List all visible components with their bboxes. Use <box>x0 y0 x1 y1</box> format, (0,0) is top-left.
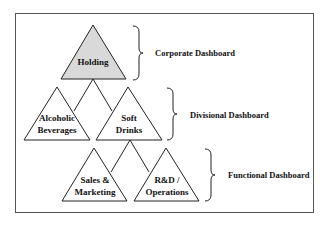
functional-brace <box>205 149 215 201</box>
connector-triangle-2 <box>111 140 149 172</box>
divisional-dashboard-label: Divisional Dashboard <box>190 110 269 120</box>
rnd-label-1: R&D / <box>154 175 180 185</box>
soft-drinks-label-1: Soft <box>121 113 137 123</box>
soft-drinks-label-2: Drinks <box>116 125 143 135</box>
corporate-dashboard-label: Corporate Dashboard <box>155 48 235 58</box>
corporate-brace <box>133 26 143 80</box>
divisional-brace <box>167 88 177 140</box>
connector-triangle-1 <box>74 79 112 111</box>
dashboard-hierarchy-diagram: Holding Alcoholic Beverages Soft Drinks … <box>0 0 330 225</box>
rnd-label-2: Operations <box>145 187 188 197</box>
sales-label-2: Marketing <box>75 187 116 197</box>
holding-label: Holding <box>77 57 109 67</box>
holding-triangle <box>61 25 126 79</box>
functional-dashboard-label: Functional Dashboard <box>228 170 310 180</box>
alcoholic-label-1: Alcoholic <box>39 113 75 123</box>
alcoholic-label-2: Beverages <box>38 125 77 135</box>
sales-label-1: Sales & <box>80 175 110 185</box>
